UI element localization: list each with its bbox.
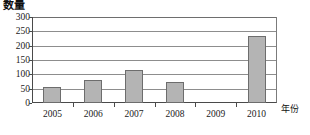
y-axis-tick-label: 300 xyxy=(16,12,30,22)
x-axis-tick-label: 2006 xyxy=(84,108,103,120)
x-axis-tick-mark xyxy=(236,103,237,107)
x-axis-tick-label: 2005 xyxy=(43,108,62,120)
y-axis-ticks: 050100150200250300 xyxy=(0,17,30,103)
y-axis-title: 数量 xyxy=(3,0,25,12)
bar-2007 xyxy=(125,70,143,103)
x-axis-tick-mark xyxy=(73,103,74,107)
y-axis-tick-label: 150 xyxy=(16,55,30,65)
x-axis-tick-label: 2008 xyxy=(165,108,184,120)
bar-2008 xyxy=(166,82,184,104)
bar-2010 xyxy=(248,36,266,103)
x-axis-tick-mark xyxy=(195,103,196,107)
y-axis-tick-label: 200 xyxy=(16,41,30,51)
x-axis-tick-label: 2007 xyxy=(125,108,144,120)
x-axis-tick-label: 2010 xyxy=(247,108,266,120)
bar-2005 xyxy=(43,87,61,103)
y-axis-tick-label: 250 xyxy=(16,26,30,36)
x-axis-tick-label: 2009 xyxy=(206,108,225,120)
x-axis-tick-mark xyxy=(114,103,115,107)
bar-chart: 数量 年份 050100150200250300 200520062007200… xyxy=(0,0,310,135)
x-axis-tick-mark xyxy=(155,103,156,107)
x-axis-title: 年份 xyxy=(281,104,299,114)
bars-layer xyxy=(32,17,277,103)
y-axis-tick-label: 100 xyxy=(16,69,30,79)
bar-2006 xyxy=(84,80,102,103)
x-axis-labels: 200520062007200820092010 xyxy=(32,108,277,122)
